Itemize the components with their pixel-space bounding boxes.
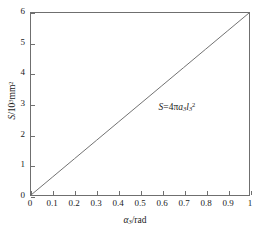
plot-area: S=4πa3l32 xyxy=(30,12,250,196)
x-tick xyxy=(31,191,32,195)
y-axis-label: S/103mm2 xyxy=(7,50,18,150)
y-tick xyxy=(31,13,35,14)
chart-figure: S=4πa3l32 00.10.20.30.40.50.60.70.80.91 … xyxy=(0,0,270,236)
y-tick xyxy=(31,44,35,45)
y-axis-label-symbol: S xyxy=(7,115,17,120)
x-tick xyxy=(207,191,208,195)
x-tick xyxy=(119,191,120,195)
y-tick xyxy=(31,105,35,106)
y-axis-label-exponent: 3 xyxy=(7,99,14,102)
y-tick-label: 1 xyxy=(10,160,25,169)
annotation-l-sup: 2 xyxy=(192,101,195,108)
x-tick xyxy=(185,191,186,195)
x-tick xyxy=(53,191,54,195)
y-axis-label-unit-exponent: 2 xyxy=(7,81,14,84)
x-tick xyxy=(163,191,164,195)
y-tick xyxy=(31,74,35,75)
y-tick-label: 5 xyxy=(10,38,25,47)
x-axis-label-unit: /rad xyxy=(132,215,147,225)
x-tick-label: 1 xyxy=(235,198,265,208)
data-line-series xyxy=(31,13,249,195)
x-tick xyxy=(75,191,76,195)
y-tick-label: 0 xyxy=(10,191,25,200)
y-tick xyxy=(31,166,35,167)
y-axis-label-unit: mm xyxy=(7,85,17,100)
annotation-eq: =4 xyxy=(163,101,173,111)
x-tick xyxy=(229,191,230,195)
y-axis-label-scale: /10 xyxy=(7,103,17,115)
y-tick xyxy=(31,136,35,137)
y-tick-label: 6 xyxy=(10,7,25,16)
x-tick xyxy=(141,191,142,195)
formula-annotation: S=4πa3l32 xyxy=(159,101,196,112)
x-tick xyxy=(251,191,252,195)
x-axis-label: α3/rad xyxy=(0,215,270,225)
x-tick xyxy=(97,191,98,195)
